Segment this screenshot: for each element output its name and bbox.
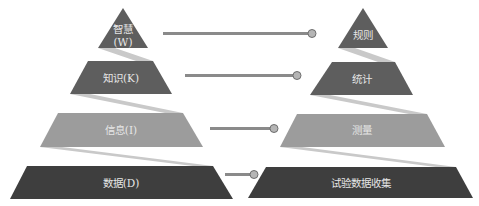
connectors <box>163 30 316 179</box>
dikw-mapping-diagram <box>0 0 479 206</box>
ribbon-1-2-left <box>98 48 153 61</box>
label-wisdom: 智慧 (W) <box>113 23 133 49</box>
label-rules: 规则 <box>353 29 373 42</box>
label-knowledge: 知识(K) <box>103 72 139 85</box>
label-data: 数据(D) <box>103 177 140 190</box>
connector-data-collection <box>225 171 258 179</box>
label-information: 信息(I) <box>105 124 137 137</box>
ribbon-3-4-left <box>40 147 213 166</box>
connector-wisdom-rules <box>163 30 316 38</box>
connector-information-measurement <box>210 125 278 133</box>
ribbon-2-3-left <box>70 94 183 113</box>
ribbon-3-4-right <box>280 147 456 167</box>
ribbon-1-2-right <box>338 48 395 62</box>
label-test-data-collection: 试验数据收集 <box>331 177 391 190</box>
label-measurement: 测量 <box>352 124 372 137</box>
connector-knowledge-statistics <box>185 72 301 80</box>
label-wisdom-line1: 智慧 <box>113 23 133 36</box>
label-wisdom-line2: (W) <box>113 36 133 49</box>
label-statistics: 统计 <box>352 73 372 86</box>
ribbon-2-3-right <box>310 95 427 114</box>
